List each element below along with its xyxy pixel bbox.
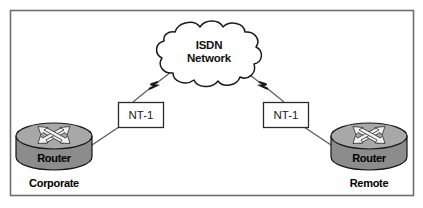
nt1-right-label: NT-1 (274, 109, 299, 121)
isdn-network-diagram: ISDN Network NT-1 NT-1 (0, 0, 423, 208)
router-left-label: Router (37, 152, 72, 164)
router-left-caption: Corporate (29, 177, 79, 189)
router-right-label: Router (352, 152, 387, 164)
nt1-device-left[interactable]: NT-1 (119, 103, 164, 128)
nt1-left-label: NT-1 (129, 109, 154, 121)
cloud-label-line1: ISDN (196, 39, 223, 51)
cloud-label-line2: Network (187, 52, 232, 64)
diagram-canvas: ISDN Network NT-1 NT-1 (0, 0, 423, 208)
router-right-caption: Remote (350, 177, 389, 189)
nt1-device-right[interactable]: NT-1 (264, 103, 309, 128)
